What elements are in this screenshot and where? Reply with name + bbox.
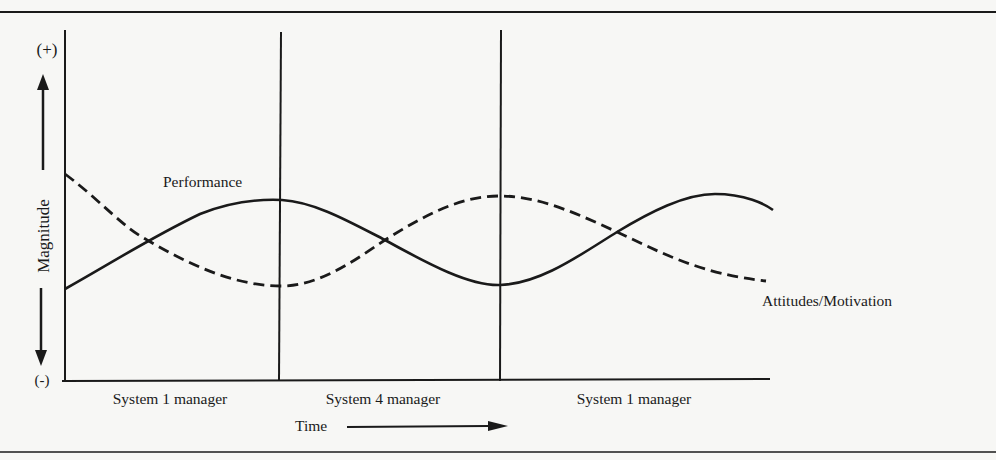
performance-label: Performance — [163, 173, 242, 190]
y-axis-plus-marker: (+) — [37, 40, 58, 59]
period-label-3: System 1 manager — [577, 390, 692, 407]
period-label-1: System 1 manager — [113, 390, 228, 407]
y-axis-label: Magnitude — [34, 199, 53, 273]
period-label-2: System 4 manager — [326, 390, 441, 407]
period-divider-2 — [500, 30, 501, 381]
x-axis-baseline — [62, 379, 770, 381]
y-axis-down-arrow-icon — [35, 288, 47, 366]
performance-curve — [65, 194, 773, 289]
diagram-canvas: (+) (-) Magnitude Performance Attitudes/… — [0, 0, 996, 460]
time-arrow-icon — [347, 421, 508, 431]
y-axis-up-arrow-icon — [37, 74, 49, 170]
attitudes-motivation-label: Attitudes/Motivation — [762, 292, 892, 309]
y-axis-minus-marker: (-) — [35, 372, 50, 389]
period-divider-1 — [279, 32, 281, 381]
x-axis-label: Time — [295, 417, 327, 434]
